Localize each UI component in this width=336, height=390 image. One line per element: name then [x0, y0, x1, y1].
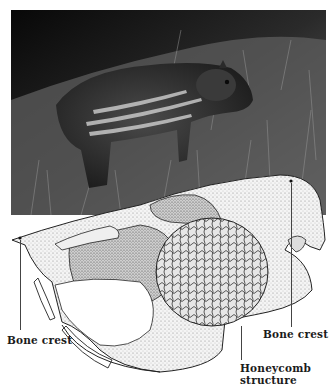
label-honeycomb-line2: structure [240, 374, 297, 386]
leader-line-bone-crest-left [20, 240, 21, 330]
leader-line-bone-crest-right [291, 183, 292, 327]
skull-illustration [0, 160, 336, 390]
skull-drawing [0, 160, 336, 390]
label-bone-crest-right: Bone crest [263, 328, 328, 340]
leader-line-honeycomb [241, 326, 242, 360]
label-bone-crest-left: Bone crest [7, 334, 72, 346]
label-honeycomb-line1: Honeycomb [240, 362, 311, 374]
